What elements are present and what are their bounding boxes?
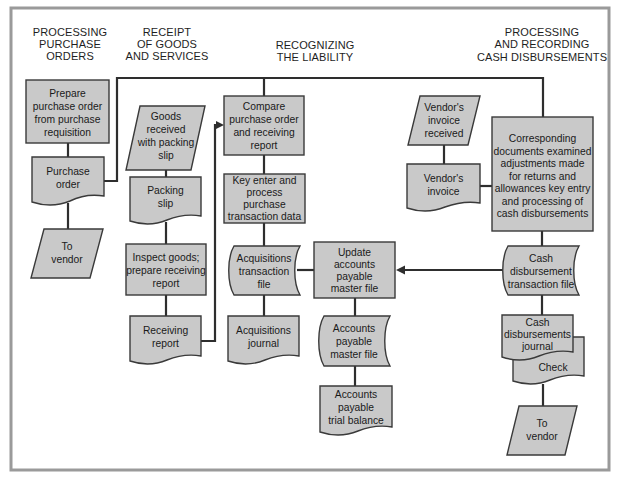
node-label: Purchase — [46, 166, 90, 177]
header-line: AND SERVICES — [126, 50, 209, 62]
node-key-enter-process[interactable]: Key enter and process purchase transacti… — [224, 174, 305, 223]
header-line: RECOGNIZING — [276, 39, 355, 51]
node-label: payable — [336, 271, 372, 282]
node-label: adjustments made — [500, 158, 584, 169]
node-label: transaction data — [228, 211, 302, 222]
node-label: master file — [331, 283, 379, 294]
node-label: documents examined — [494, 146, 592, 157]
header-line: RECEIPT — [143, 26, 192, 38]
node-label: journal — [521, 341, 553, 352]
node-label: requisition — [44, 127, 91, 138]
header-line: PROCESSING — [505, 26, 579, 38]
node-label: Cash — [525, 317, 549, 328]
node-vendor-invoice-received[interactable]: Vendor's invoice received — [408, 96, 480, 145]
node-label: Inspect goods; — [133, 252, 200, 263]
flowchart-canvas: PROCESSING PURCHASE ORDERS RECEIPT OF GO… — [0, 0, 617, 478]
node-inspect-goods[interactable]: Inspect goods; prepare receiving report — [126, 244, 206, 295]
node-label: Acquisitions — [236, 325, 291, 336]
node-to-vendor-2[interactable]: To vendor — [507, 406, 577, 455]
node-label: report — [153, 278, 180, 289]
node-compare-po-receiving[interactable]: Compare purchase order and receiving rep… — [224, 96, 304, 155]
node-label: payable — [336, 336, 372, 347]
node-label: slip — [158, 150, 174, 161]
header-line: THE LIABILITY — [277, 51, 354, 63]
node-label: and processing of — [502, 196, 583, 207]
node-ap-master-file[interactable]: Accounts payable master file — [319, 316, 390, 366]
node-label: To — [62, 241, 73, 252]
node-corresponding-documents[interactable]: Corresponding documents examined adjustm… — [492, 117, 593, 231]
node-label: vendor — [526, 431, 558, 442]
header-line: PURCHASE — [39, 38, 101, 50]
node-label: report — [152, 338, 179, 349]
node-label: disbursement — [510, 266, 572, 277]
node-label: process — [246, 187, 282, 198]
node-label: allowances key entry — [495, 183, 591, 194]
node-label: cash disbursements — [497, 208, 589, 219]
header-line: OF GOODS — [137, 38, 197, 50]
node-label: received — [425, 128, 464, 139]
node-label: slip — [158, 198, 174, 209]
node-label: Acquisitions — [237, 253, 292, 264]
node-label: Packing — [147, 185, 184, 196]
node-label: for returns and — [509, 171, 576, 182]
node-label: To — [537, 418, 548, 429]
node-label: purchase order — [33, 101, 103, 112]
node-label: Vendor's — [424, 102, 464, 113]
node-label: Compare — [243, 101, 286, 112]
node-label: Key enter and — [232, 175, 296, 186]
node-label: Goods — [151, 111, 181, 122]
node-label: Vendor's — [424, 173, 464, 184]
header-line: ORDERS — [46, 50, 94, 62]
node-label: Prepare — [49, 88, 86, 99]
node-label: vendor — [51, 254, 83, 265]
node-label: received — [147, 124, 186, 135]
node-goods-received[interactable]: Goods received with packing slip — [126, 106, 205, 170]
node-label: invoice — [427, 186, 459, 197]
node-acquisitions-transaction-file[interactable]: Acquisitions transaction file — [229, 246, 300, 295]
node-label: from purchase — [35, 114, 101, 125]
node-label: payable — [338, 402, 374, 413]
node-label: Cash — [529, 253, 553, 264]
node-label: Accounts — [333, 323, 375, 334]
node-label: Corresponding — [509, 133, 577, 144]
node-label: master file — [330, 349, 378, 360]
node-cash-disbursement-transaction-file[interactable]: Cash disbursement transaction file — [503, 246, 579, 295]
node-label: Update — [338, 247, 371, 258]
node-prepare-purchase-order[interactable]: Prepare purchase order from purchase req… — [26, 80, 109, 143]
node-update-accounts-payable[interactable]: Update accounts payable master file — [314, 242, 395, 298]
node-label: order — [56, 179, 81, 190]
node-label: journal — [247, 338, 279, 349]
header-line: AND RECORDING — [495, 38, 590, 50]
column-header-recognizing-liability: RECOGNIZING THE LIABILITY — [276, 39, 355, 63]
node-label: transaction file — [508, 279, 575, 290]
node-label: with packing — [137, 137, 195, 148]
node-label: purchase — [243, 199, 286, 210]
node-label: disbursements — [504, 329, 571, 340]
node-label: and receiving — [233, 127, 295, 138]
header-line: CASH DISBURSEMENTS — [477, 51, 607, 63]
node-label: file — [257, 279, 270, 290]
node-label: report — [251, 140, 278, 151]
node-label: prepare receiving — [126, 265, 206, 276]
node-label: accounts — [334, 259, 375, 270]
node-label: Accounts — [335, 389, 377, 400]
node-label: transaction — [239, 266, 290, 277]
header-line: PROCESSING — [33, 26, 107, 38]
node-label: trial balance — [328, 415, 384, 426]
node-to-vendor-1[interactable]: To vendor — [31, 229, 103, 278]
node-label: purchase order — [229, 114, 299, 125]
node-label: Receiving — [143, 325, 188, 336]
node-label: invoice — [428, 115, 460, 126]
node-label: Check — [538, 362, 568, 373]
